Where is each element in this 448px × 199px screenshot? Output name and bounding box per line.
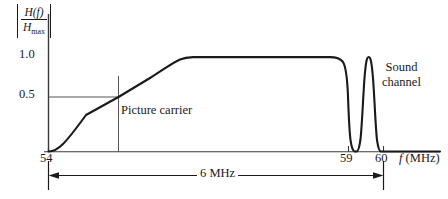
x-tick-label-54: 54 — [40, 152, 53, 165]
bandwidth-dimension-label: 6 MHz — [197, 167, 238, 180]
dimension-arrowhead-left — [49, 172, 60, 178]
x-tick-label-60: 60 — [375, 152, 388, 165]
fraction-bar — [21, 19, 47, 20]
sound-channel-label: Sound channel — [382, 60, 421, 90]
y-axis-denominator-subscript: max — [31, 27, 45, 36]
x-tick-label-59: 59 — [340, 152, 353, 165]
sound-channel-label-line2: channel — [382, 75, 421, 90]
sound-channel-label-line1: Sound — [382, 60, 421, 75]
y-axis-label: H(f) Hmax — [14, 4, 54, 38]
picture-carrier-label: Picture carrier — [121, 104, 192, 117]
x-axis-unit-text: (MHz) — [406, 151, 440, 165]
y-tick-label-0-5: 0.5 — [19, 88, 35, 101]
y-axis-numerator: H(f) — [22, 6, 45, 18]
y-axis-fraction: H(f) Hmax — [21, 6, 47, 37]
x-axis-unit-label: f (MHz) — [399, 152, 440, 165]
abs-bar-left — [17, 4, 18, 38]
abs-bar-right — [50, 4, 51, 38]
x-axis-variable: f — [399, 151, 402, 165]
dimension-arrowhead-right — [373, 172, 384, 178]
y-axis-denominator: Hmax — [21, 21, 47, 37]
y-tick-label-1-0: 1.0 — [19, 48, 35, 61]
